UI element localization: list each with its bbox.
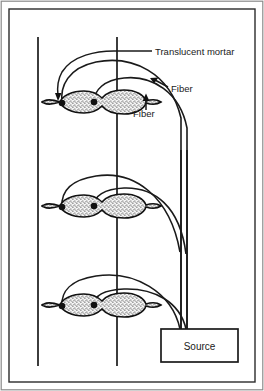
leader-curve-translucent-mortar xyxy=(58,51,119,96)
label-translucent-mortar: Translucent mortar xyxy=(155,46,234,57)
figure-container: Source Translucent mortar Fiber Fiber xyxy=(0,0,264,391)
fiber-end-dot xyxy=(91,203,98,210)
label-fiber-upper: Fiber xyxy=(171,83,193,94)
fiber-mortar-diagram: Source Translucent mortar Fiber Fiber xyxy=(0,0,264,391)
fiber-end-dot xyxy=(59,303,66,310)
fiber-end-dot xyxy=(91,302,98,309)
fiber-end-dot xyxy=(59,100,66,107)
label-fiber-lower: Fiber xyxy=(133,108,155,119)
fiber-end-dot xyxy=(59,204,66,211)
fiber-end-dot xyxy=(91,99,98,106)
source-box-label: Source xyxy=(184,341,216,352)
